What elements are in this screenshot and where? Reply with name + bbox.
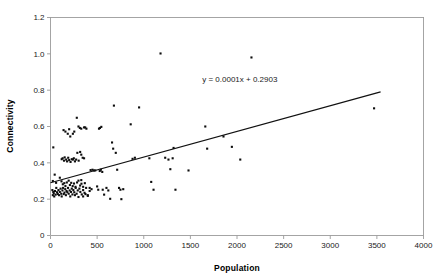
data-point <box>111 141 113 143</box>
data-point <box>59 191 61 193</box>
data-point <box>56 191 58 193</box>
data-point <box>68 180 70 182</box>
data-point <box>59 177 61 179</box>
data-point <box>80 179 82 181</box>
data-point <box>73 157 75 159</box>
y-tick-label: 0 <box>40 231 45 240</box>
data-point <box>67 133 69 135</box>
data-point <box>90 169 92 171</box>
data-point <box>53 195 55 197</box>
data-point <box>61 195 63 197</box>
data-point <box>66 160 68 162</box>
data-point <box>90 188 92 190</box>
data-point <box>77 196 79 198</box>
data-point <box>73 182 75 184</box>
data-point <box>96 185 98 187</box>
data-point <box>76 193 78 195</box>
data-point <box>79 151 81 153</box>
data-point <box>80 154 82 156</box>
data-point <box>77 189 79 191</box>
data-point <box>109 198 111 200</box>
data-point <box>85 187 87 189</box>
data-point <box>82 186 84 188</box>
data-point <box>164 157 166 159</box>
x-axis-title: Population <box>214 263 260 273</box>
data-point <box>112 148 114 150</box>
x-axis-ticks: 05001000150020002500300035004000 <box>48 236 433 251</box>
x-tick-label: 0 <box>48 241 53 250</box>
data-point <box>54 190 56 192</box>
data-point <box>68 159 70 161</box>
data-point <box>206 148 208 150</box>
data-point <box>152 189 154 191</box>
data-point <box>67 157 69 159</box>
data-point <box>79 191 81 193</box>
data-point <box>73 191 75 193</box>
data-point <box>89 190 91 192</box>
data-point <box>69 184 71 186</box>
data-point <box>66 181 68 183</box>
data-point <box>72 185 74 187</box>
data-point <box>250 56 252 58</box>
x-tick-label: 3000 <box>321 241 339 250</box>
data-point <box>60 193 62 195</box>
data-point <box>76 181 78 183</box>
data-point <box>119 189 121 191</box>
data-point <box>60 188 62 190</box>
data-point <box>97 189 99 191</box>
y-tick-label: 1.0 <box>33 50 45 59</box>
chart-canvas: 00.20.40.60.81.01.2 05001000150020002500… <box>0 0 446 278</box>
data-point <box>174 189 176 191</box>
data-point <box>231 146 233 148</box>
trendline-equation-label: y = 0.0001x + 0.2903 <box>202 75 278 84</box>
data-point <box>187 169 189 171</box>
data-point <box>69 161 71 163</box>
x-tick-label: 2500 <box>275 241 293 250</box>
data-point <box>64 185 66 187</box>
data-point <box>76 152 78 154</box>
data-point <box>57 189 59 191</box>
data-point <box>62 187 64 189</box>
data-point <box>80 183 82 185</box>
data-point <box>172 157 174 159</box>
x-tick-label: 1000 <box>135 241 153 250</box>
data-point <box>84 182 86 184</box>
data-point <box>74 186 76 188</box>
data-point <box>83 157 85 159</box>
data-point <box>65 194 67 196</box>
data-point <box>138 106 140 108</box>
data-point <box>63 192 65 194</box>
data-point <box>78 160 80 162</box>
data-point <box>54 174 56 176</box>
data-point <box>75 159 77 161</box>
data-point <box>63 160 65 162</box>
data-point <box>118 187 120 189</box>
x-tick-label: 2000 <box>228 241 246 250</box>
data-point <box>62 157 64 159</box>
data-point <box>102 189 104 191</box>
data-point <box>80 128 82 130</box>
data-point <box>116 169 118 171</box>
data-point <box>55 187 57 189</box>
data-point <box>84 193 86 195</box>
x-tick-label: 500 <box>90 241 104 250</box>
y-tick-label: 0.6 <box>33 122 45 131</box>
y-axis-title: Connectivity <box>5 99 15 152</box>
data-point <box>67 187 69 189</box>
data-point <box>65 159 67 161</box>
data-point <box>64 156 66 158</box>
data-point <box>72 189 74 191</box>
data-point <box>373 107 375 109</box>
data-point <box>167 159 169 161</box>
data-point <box>61 189 63 191</box>
data-point <box>55 182 57 184</box>
data-point <box>52 146 54 148</box>
x-tick-label: 3500 <box>368 241 386 250</box>
data-point <box>70 182 72 184</box>
data-point <box>58 194 60 196</box>
data-point <box>60 180 62 182</box>
data-point <box>113 105 115 107</box>
data-point <box>68 128 70 130</box>
x-tick-label: 4000 <box>415 241 433 250</box>
data-point <box>169 168 171 170</box>
